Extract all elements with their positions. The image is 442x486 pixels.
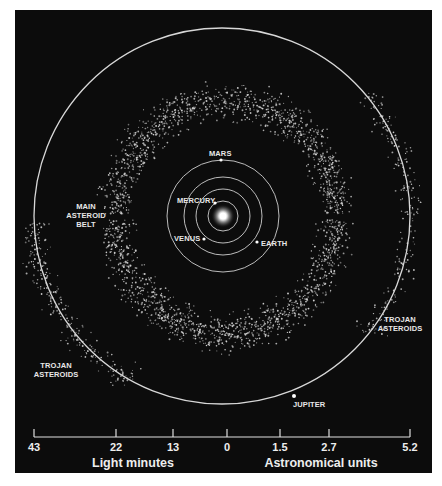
mercury-label: MERCURY — [177, 196, 215, 205]
astronomical-units-label: Astronomical units — [264, 456, 377, 470]
scale-tick-label: 1.5 — [272, 441, 287, 453]
sun-icon — [220, 213, 227, 220]
venus-label: VENUS — [174, 234, 200, 243]
trojan-left-label-line1: TROJAN — [40, 361, 71, 370]
earth-dot — [255, 240, 258, 243]
mars-dot — [219, 158, 222, 161]
light-minutes-label: Light minutes — [92, 456, 174, 470]
scale-tick-label: 5.2 — [402, 441, 417, 453]
scale-tick-label: 2.7 — [321, 441, 336, 453]
asteroid-field — [22, 81, 421, 386]
scale-tick-label: 22 — [110, 441, 122, 453]
solar-system-diagram: MARS MERCURY VENUS EARTH JUPITER MAIN AS… — [0, 0, 442, 486]
scale-tick-label: 0 — [224, 441, 230, 453]
main-belt-label-line2: ASTEROID — [66, 211, 106, 220]
earth-label: EARTH — [261, 239, 287, 248]
mars-label: MARS — [209, 149, 231, 158]
jupiter-dot — [292, 394, 296, 398]
trojan-right-label-line2: ASTEROIDS — [378, 324, 423, 333]
scale-tick-label: 13 — [167, 441, 179, 453]
trojan-right-label-line1: TROJAN — [384, 315, 415, 324]
distance-scale: 43221301.52.75.2 Light minutes Astronomi… — [28, 429, 418, 470]
main-belt-label-line1: MAIN — [76, 202, 96, 211]
jupiter-label: JUPITER — [293, 400, 326, 409]
venus-dot — [202, 237, 205, 240]
scale-tick-label: 43 — [28, 441, 40, 453]
trojan-left-label-line2: ASTEROIDS — [34, 370, 79, 379]
main-belt-label-line3: BELT — [76, 220, 96, 229]
